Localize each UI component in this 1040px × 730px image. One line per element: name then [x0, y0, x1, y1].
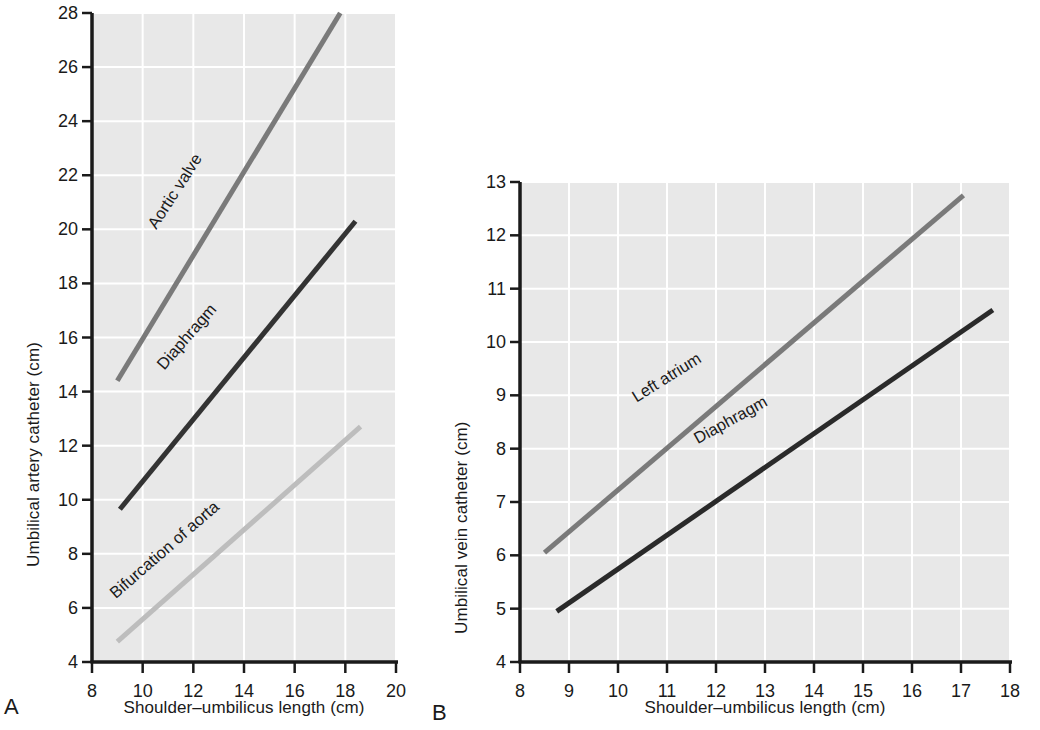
panel-b-plot: Left atriumDiaphragm [430, 0, 1040, 730]
figure-umbilical-catheter-nomograms: Umbilical artery catheter (cm) Shoulder–… [0, 0, 1040, 730]
panel-a-plot: Aortic valveDiaphragmBifurcation of aort… [0, 0, 430, 730]
panel-b: Umbilical vein catheter (cm) Shoulder–um… [430, 0, 1040, 730]
panel-a: Umbilical artery catheter (cm) Shoulder–… [0, 0, 430, 730]
